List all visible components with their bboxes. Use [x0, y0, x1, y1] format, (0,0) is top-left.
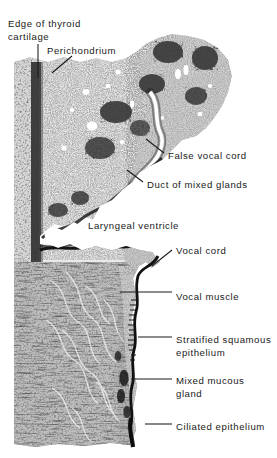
- label-text-line1: Laryngeal ventricle: [88, 220, 179, 233]
- label-duct-of-mixed-glands: Duct of mixed glands: [147, 179, 248, 192]
- label-text-line1: Stratified squamous: [176, 334, 271, 347]
- label-text-line1: Mixed mucous: [176, 375, 244, 388]
- label-text-line1: False vocal cord: [168, 150, 247, 163]
- label-vocal-muscle: Vocal muscle: [176, 291, 239, 304]
- label-mixed-mucous-gland: Mixed mucousgland: [176, 375, 244, 400]
- label-text-line1: Vocal muscle: [176, 291, 239, 304]
- label-false-vocal-cord: False vocal cord: [168, 150, 247, 163]
- label-text-line1: Vocal cord: [176, 245, 226, 258]
- label-edge-of-thyroid-cartilage: Edge of thyroidcartilage: [8, 18, 81, 43]
- right-margin-epithelium: [130, 256, 158, 447]
- label-text-line1: Ciliated epithelium: [176, 421, 265, 434]
- label-ciliated-epithelium: Ciliated epithelium: [176, 421, 265, 434]
- label-text-line1: Perichondrium: [47, 45, 116, 58]
- label-text-line2: gland: [176, 388, 244, 401]
- label-perichondrium: Perichondrium: [47, 45, 116, 58]
- label-text-line1: Duct of mixed glands: [147, 179, 248, 192]
- label-vocal-cord: Vocal cord: [176, 245, 226, 258]
- label-text-line1: Edge of thyroid: [8, 18, 81, 31]
- label-stratified-squamous-epithelium: Stratified squamousepithelium: [176, 334, 271, 359]
- label-text-line2: cartilage: [8, 31, 81, 44]
- histology-plate: Edge of thyroidcartilagePerichondriumFal…: [0, 0, 277, 458]
- label-text-line2: epithelium: [176, 347, 271, 360]
- label-laryngeal-ventricle: Laryngeal ventricle: [88, 220, 179, 233]
